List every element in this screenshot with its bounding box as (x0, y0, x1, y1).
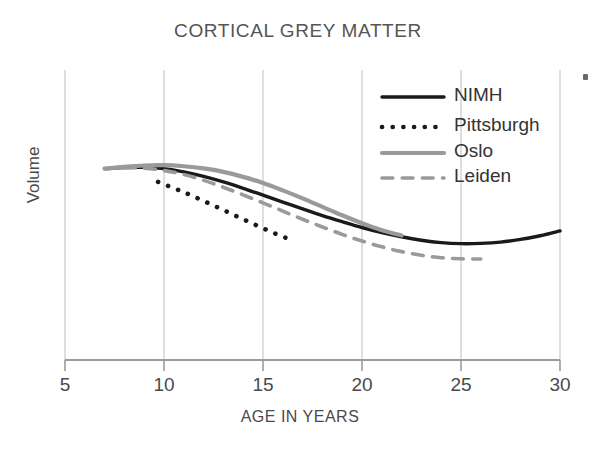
legend-label-leiden: Leiden (454, 165, 511, 187)
legend-label-nimh: NIMH (454, 84, 503, 106)
legend-label-pittsburgh: Pittsburgh (454, 114, 540, 136)
x-tick-label-20: 20 (342, 374, 382, 396)
y-axis-label: Volume (24, 135, 44, 215)
x-tick-label-15: 15 (243, 374, 283, 396)
chart-figure: CORTICAL GREY MATTER Volume AGE IN YEARS… (0, 0, 596, 462)
series-line-leiden (124, 168, 480, 259)
x-tick-label-30: 30 (540, 374, 580, 396)
x-tick-label-5: 5 (45, 374, 85, 396)
x-axis (65, 360, 560, 371)
plot-area (0, 0, 596, 462)
legend-line-samples (382, 97, 444, 178)
edge-mark (583, 74, 588, 80)
series-line-pittsburgh (158, 182, 287, 238)
x-axis-label: AGE IN YEARS (160, 408, 440, 426)
x-tick-label-25: 25 (441, 374, 481, 396)
legend-label-oslo: Oslo (454, 140, 493, 162)
x-tick-label-10: 10 (144, 374, 184, 396)
